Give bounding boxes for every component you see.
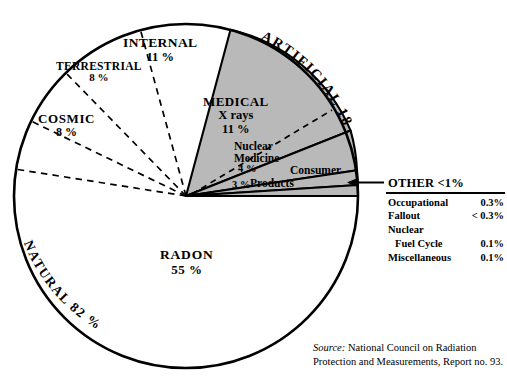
slice-label-internal-name: INTERNAL [123,36,197,51]
slice-label-medical-name: MEDICAL [203,95,269,109]
radiation-exposure-pie-chart-figure: ARTIFICIAL 18 % NATURAL 82 % INTERNAL 11… [0,0,507,379]
slice-label-medical-xrays: MEDICAL X rays 11 % [203,95,269,136]
slice-label-terrestrial: TERRESTRIAL 8 % [56,60,142,84]
divider-radon-cosmic [15,169,186,196]
other-row-label: Fallout [386,210,465,224]
source-note: Source: National Council on Radiation Pr… [313,341,507,369]
slice-label-cosmic-name: COSMIC [38,112,95,126]
slice-label-medical-sub: X rays [203,109,269,123]
slice-label-cosmic: COSMIC 8 % [38,112,95,139]
table-row: Occupational 0.3% [386,197,505,211]
slice-label-cosmic-pct: 8 % [38,126,95,139]
source-prefix: Source: [313,342,345,353]
other-panel-title: OTHER <1% [386,176,507,191]
slice-label-nuclear-medicine: Nuclear Medicine [234,140,279,164]
table-row: Fuel Cycle 0.1% [386,238,505,252]
slice-label-medical-pct: 11 % [203,123,269,137]
other-row-label: Occupational [386,197,465,211]
slice-label-consumer-products-pct: 3 % [232,179,250,190]
slice-label-terrestrial-pct: 8 % [56,72,142,84]
other-row-value: 0.1% [465,252,505,266]
other-panel-table: Occupational 0.3% Fallout < 0.3% Nuclear… [386,197,505,266]
slice-label-nuclear-medicine-pct: 4 % [238,163,256,174]
other-breakdown-panel: OTHER <1% Occupational 0.3% Fallout < 0.… [386,176,507,266]
slice-label-radon-pct: 55 % [160,263,214,277]
other-row-label: Nuclear [386,224,465,238]
table-row: Fallout < 0.3% [386,210,505,224]
other-panel-rule [386,192,505,194]
slice-label-nuclear-medicine-line1: Nuclear [234,140,279,152]
other-row-label: Fuel Cycle [386,238,465,252]
other-row-value: 0.3% [465,197,505,211]
other-row-value: 0.1% [465,238,505,252]
slice-label-radon: RADON 55 % [160,248,214,277]
other-row-label: Miscellaneous [386,252,465,266]
slice-label-consumer-products-line2: Products [250,177,294,189]
slice-label-radon-name: RADON [160,248,214,263]
other-row-value [465,224,505,238]
table-row: Nuclear [386,224,505,238]
other-row-value: < 0.3% [465,210,505,224]
slice-label-consumer-products-line1: Consumer [290,164,341,176]
natural-arc-label: NATURAL 82 % [21,238,105,332]
table-row: Miscellaneous 0.1% [386,252,505,266]
